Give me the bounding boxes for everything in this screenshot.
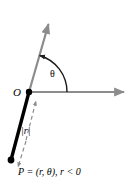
magnitude-label: |r|	[21, 126, 30, 136]
origin-label: O	[13, 87, 21, 98]
angle-theta-label: θ	[50, 69, 55, 79]
point-p-dot	[8, 157, 15, 164]
polar-coordinate-diagram: O θ |r| P = (r, θ), r < 0	[0, 0, 136, 181]
magnitude-arrow-down	[18, 141, 26, 167]
origin-point-dot	[26, 89, 32, 95]
point-p-label: P = (r, θ), r < 0	[18, 167, 81, 177]
